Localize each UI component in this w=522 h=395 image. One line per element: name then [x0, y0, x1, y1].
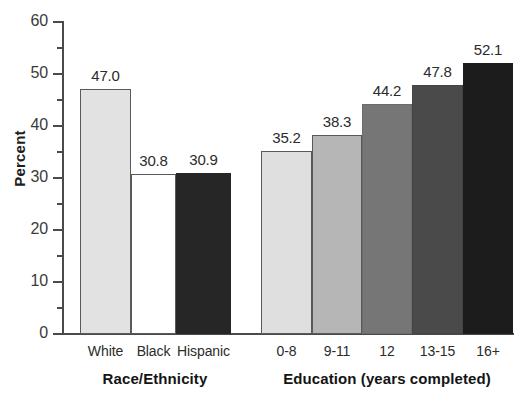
y-tick-label-20: 20 — [8, 220, 48, 238]
y-tick-label-50: 50 — [8, 64, 48, 82]
bar-value-black: 30.8 — [128, 152, 179, 169]
cat-label-hispanic: Hispanic — [176, 343, 231, 359]
y-tick-label-10: 10 — [8, 272, 48, 290]
bar-value-edu-0-8: 35.2 — [261, 129, 312, 146]
y-tick-label-60: 60 — [8, 12, 48, 30]
y-tick-60 — [53, 21, 63, 23]
bar-value-edu-16-plus: 52.1 — [463, 41, 513, 58]
bar-white — [80, 89, 131, 334]
cat-label-edu-16-plus: 16+ — [463, 343, 513, 359]
bar-edu-16-plus — [463, 63, 513, 334]
bar-edu-13-15 — [412, 85, 463, 334]
cat-label-edu-13-15: 13-15 — [412, 343, 463, 359]
y-tick-20 — [53, 229, 63, 231]
bar-value-hispanic: 30.9 — [176, 151, 231, 168]
bar-value-white: 47.0 — [80, 67, 131, 84]
bar-edu-12 — [362, 104, 412, 334]
bar-black — [131, 174, 176, 334]
y-tick-0 — [53, 333, 63, 335]
bar-chart-figure: 60 50 40 30 20 10 0 Percent 47.0 30.8 30… — [0, 0, 522, 395]
cat-label-edu-0-8: 0-8 — [261, 343, 312, 359]
cat-label-white: White — [80, 343, 131, 359]
y-tick-40 — [53, 125, 63, 127]
y-tick-minor-35 — [57, 151, 63, 153]
bar-hispanic — [176, 173, 231, 334]
group-title-education: Education (years completed) — [258, 370, 516, 387]
y-tick-minor-55 — [57, 47, 63, 49]
y-tick-10 — [53, 281, 63, 283]
plot-area: 60 50 40 30 20 10 0 Percent 47.0 30.8 30… — [0, 0, 522, 395]
cat-label-edu-12: 12 — [362, 343, 412, 359]
group-title-race: Race/Ethnicity — [75, 370, 235, 387]
y-tick-minor-15 — [57, 255, 63, 257]
bar-value-edu-13-15: 47.8 — [412, 63, 463, 80]
bar-edu-0-8 — [261, 151, 312, 334]
bar-value-edu-12: 44.2 — [362, 82, 412, 99]
y-axis-title: Percent — [11, 104, 28, 214]
y-tick-30 — [53, 177, 63, 179]
y-tick-label-0: 0 — [8, 324, 48, 342]
cat-label-black: Black — [128, 343, 179, 359]
bar-value-edu-9-11: 38.3 — [312, 113, 362, 130]
bar-edu-9-11 — [312, 135, 362, 334]
y-tick-50 — [53, 73, 63, 75]
y-tick-minor-45 — [57, 99, 63, 101]
cat-label-edu-9-11: 9-11 — [312, 343, 362, 359]
y-tick-minor-25 — [57, 203, 63, 205]
y-tick-minor-5 — [57, 307, 63, 309]
